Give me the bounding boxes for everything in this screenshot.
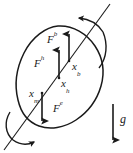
mass-center-point-label: xm <box>29 84 39 103</box>
buoyancy-point-dot <box>68 60 71 63</box>
hydrodynamic-force-label: Fh <box>34 54 44 70</box>
buoyancy-force-label: Fb <box>47 30 57 46</box>
mass-center-point-dot <box>41 92 44 95</box>
hydrodynamic-point-dot <box>58 77 61 80</box>
external-force-label: Fe <box>53 99 63 115</box>
rotation-arc-top <box>99 32 106 68</box>
hydrodynamic-point-label: xh <box>61 74 69 93</box>
buoyancy-point-label: xb <box>72 57 80 76</box>
rotation-arc-bottom <box>6 112 13 140</box>
gravity-label: g <box>120 110 126 126</box>
rotation-arc-bottom-lead <box>13 140 34 144</box>
force-diagram-figure: Fb Fh Fe xb xh xm g <box>0 0 133 153</box>
